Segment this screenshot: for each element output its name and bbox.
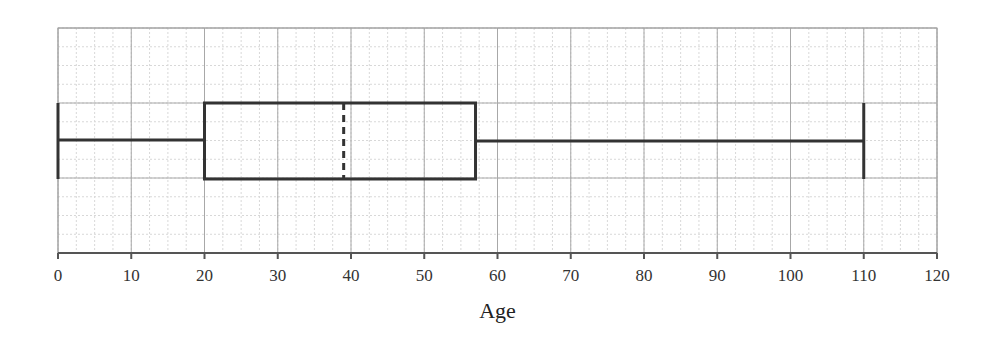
x-tick-label: 10 bbox=[123, 266, 140, 285]
x-tick-label: 30 bbox=[269, 266, 286, 285]
x-axis bbox=[58, 253, 937, 259]
box-plot-chart: 0102030405060708090100110120 Age bbox=[0, 0, 997, 342]
x-tick-label: 100 bbox=[778, 266, 804, 285]
x-tick-label: 60 bbox=[489, 266, 506, 285]
x-tick-label: 50 bbox=[416, 266, 433, 285]
x-tick-label: 80 bbox=[636, 266, 653, 285]
x-tick-label: 40 bbox=[343, 266, 360, 285]
x-tick-label: 70 bbox=[562, 266, 579, 285]
x-tick-label: 0 bbox=[54, 266, 63, 285]
x-tick-label: 20 bbox=[196, 266, 213, 285]
x-tick-label: 120 bbox=[924, 266, 950, 285]
x-tick-labels: 0102030405060708090100110120 bbox=[54, 266, 950, 285]
x-axis-title: Age bbox=[479, 298, 516, 323]
x-tick-label: 110 bbox=[851, 266, 876, 285]
x-tick-label: 90 bbox=[709, 266, 726, 285]
